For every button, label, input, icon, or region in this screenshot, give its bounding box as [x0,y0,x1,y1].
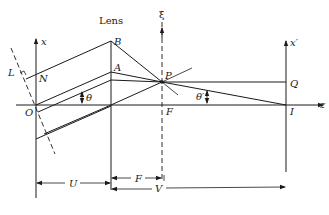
N-label: N [38,73,49,84]
xi-label: ξ [159,9,165,20]
lens-label: Lens [99,15,123,26]
V-label: V [155,183,164,194]
B-label: B [113,36,121,47]
x-prime-axis-label: x′ [290,37,299,48]
theta-label: θ [86,92,92,103]
U-label: U [69,178,78,189]
theta-prime-label: θ′ [196,91,205,102]
Q-label: Q [290,78,298,89]
F-distance-label: F [134,173,143,184]
ray-through-center [44,105,111,134]
L-label: L [7,67,15,78]
x-axis-label: x [41,36,47,47]
ray-P-I [162,82,286,105]
wavefront-line-L [11,48,55,154]
ray-center-P [111,82,162,105]
A-label: A [113,62,121,73]
ray-parallel-2 [38,80,111,112]
F-point-label: F [165,106,174,117]
O-label: O [25,107,33,118]
point-P [160,80,164,84]
I-label: I [289,106,295,117]
lens-ray-diagram: z x Lens ξ x′ L θ θ′ B A P Q N O F I [0,0,329,215]
z-axis-label: z [319,99,326,110]
ray-lower [36,106,111,139]
V-dimension-right [166,187,285,188]
P-label: P [164,70,172,81]
